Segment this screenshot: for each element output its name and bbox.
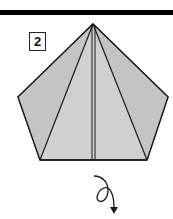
top-divider-bar — [0, 10, 173, 15]
turn-over-arrow-icon — [94, 176, 118, 214]
step-number: 2 — [34, 34, 41, 49]
origami-diagram — [0, 0, 173, 219]
step-number-badge: 2 — [29, 32, 46, 51]
